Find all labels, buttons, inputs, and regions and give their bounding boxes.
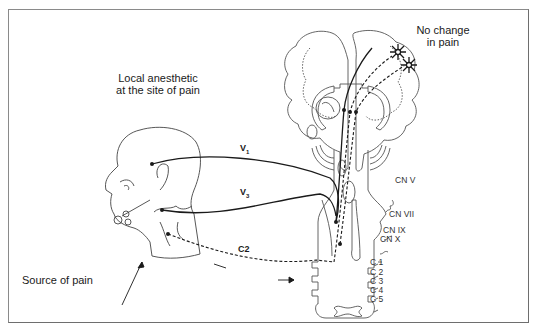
pain-starburst-1: [390, 44, 406, 60]
no-change-line-2: in pain: [408, 36, 478, 48]
c5-label: C 5: [370, 295, 383, 304]
v3-label: V3: [240, 186, 249, 202]
cn-v-label: CN V: [395, 176, 415, 185]
pain-starburst-2: [401, 57, 417, 73]
no-change-label: No change in pain: [408, 24, 478, 48]
local-anesthetic-line-2: at the site of pain: [108, 84, 208, 96]
c1-label: C 1: [370, 258, 383, 267]
brain-left-hemisphere: [285, 31, 348, 170]
spinal-cord-left-edge: [312, 262, 318, 304]
source-of-pain-label: Source of pain: [22, 274, 93, 286]
v1-label: V1: [240, 142, 249, 158]
head-profile: [105, 127, 200, 258]
c2-pathway: [168, 234, 334, 262]
no-change-line-1: No change: [408, 24, 478, 36]
cn-x-label: CN X: [380, 235, 400, 244]
local-anesthetic-line-1: Local anesthetic: [108, 72, 208, 84]
local-anesthetic-label: Local anesthetic at the site of pain: [108, 72, 208, 96]
cn-vii-label: CN VII: [389, 210, 414, 219]
c2-label: C2: [238, 243, 250, 255]
